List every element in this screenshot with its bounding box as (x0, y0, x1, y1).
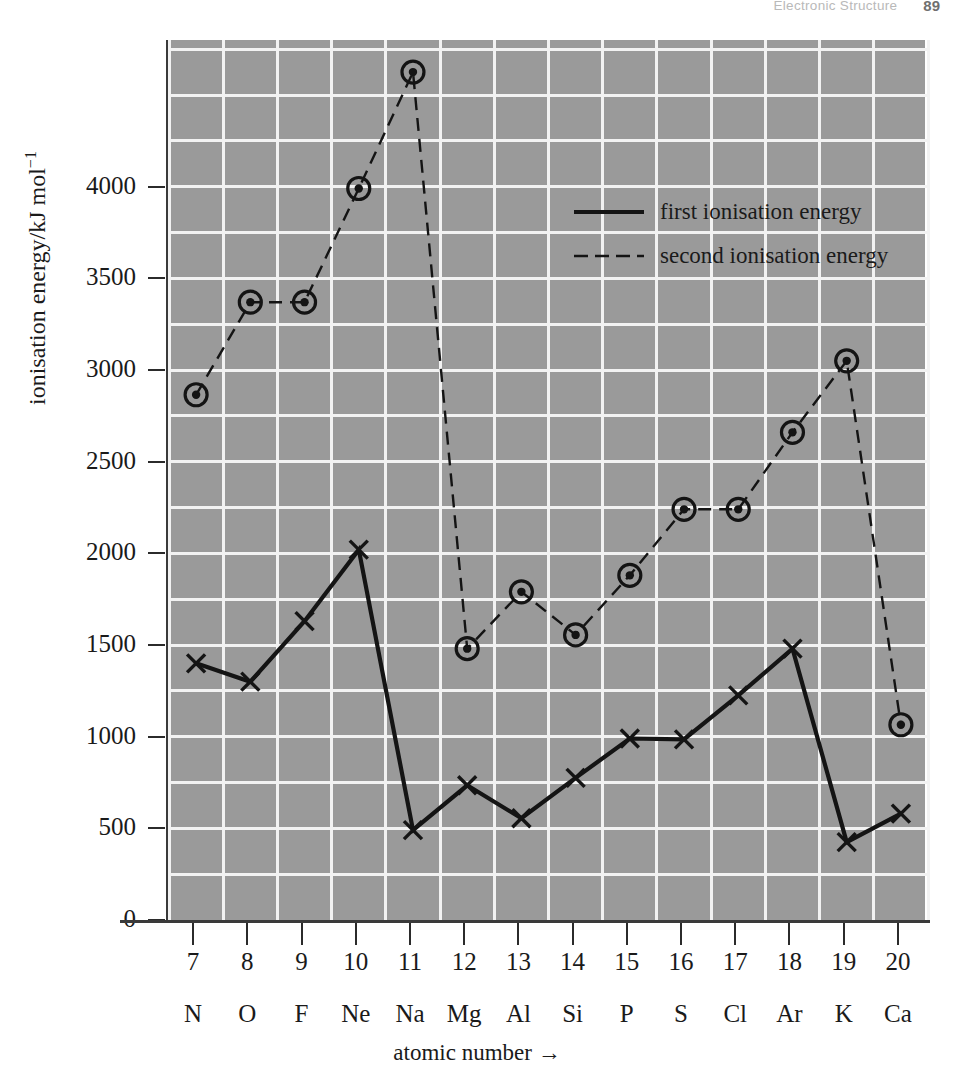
y-axis-tick (148, 644, 165, 646)
data-layer (169, 40, 928, 920)
element-symbol-label: N (163, 1000, 223, 1028)
element-symbol-label: O (217, 1000, 277, 1028)
element-symbol-label: Al (488, 1000, 548, 1028)
x-axis-tick (897, 923, 899, 945)
x-axis-tick-label: 20 (868, 948, 928, 976)
y-axis-tick-label: 3500 (16, 264, 136, 289)
y-axis-tick (148, 277, 165, 279)
legend-label-first: first ionisation energy (660, 199, 861, 225)
element-symbol-label: Ca (868, 1000, 928, 1028)
element-symbol-label: P (597, 1000, 657, 1028)
y-axis-tick (148, 186, 165, 188)
y-axis-tick (148, 552, 165, 554)
element-symbol-label: F (272, 1000, 332, 1028)
data-point-marker-dot (842, 357, 850, 365)
data-point-marker-dot (355, 184, 363, 192)
x-axis-tick (843, 923, 845, 945)
x-axis-tick (355, 923, 357, 945)
legend-solid-line-icon (572, 205, 646, 219)
element-symbol-label: Ar (759, 1000, 819, 1028)
element-symbol-label: Cl (705, 1000, 765, 1028)
data-point-marker-dot (626, 571, 634, 579)
x-axis-tick-label: 15 (597, 948, 657, 976)
element-symbol-label: Na (380, 1000, 440, 1028)
data-point-marker-dot (788, 428, 796, 436)
x-axis-tick (409, 923, 411, 945)
x-axis-tick (680, 923, 682, 945)
chart-legend: first ionisation energy second ionisatio… (572, 190, 888, 278)
data-point-marker-dot (246, 298, 254, 306)
y-axis-tick-label: 2500 (16, 448, 136, 473)
y-axis-tick-label: 0 (16, 906, 136, 931)
x-axis-tick (572, 923, 574, 945)
y-axis-tick (148, 827, 165, 829)
data-point-marker-dot (409, 68, 417, 76)
y-axis-title: ionisation energy/kJ mol−1 (22, 65, 51, 405)
series-first-ionisation-energy (187, 541, 910, 851)
element-symbol-label: Mg (434, 1000, 494, 1028)
data-point-marker-dot (571, 631, 579, 639)
element-symbol-label: Ne (326, 1000, 386, 1028)
x-axis-tick-label: 17 (705, 948, 765, 976)
x-axis-tick-label: 9 (272, 948, 332, 976)
element-symbol-label: S (651, 1000, 711, 1028)
y-axis-tick-label: 2000 (16, 539, 136, 564)
data-point-marker-dot (897, 721, 905, 729)
y-axis-tick (148, 736, 165, 738)
data-point-marker-dot (300, 298, 308, 306)
x-axis-tick-label: 18 (759, 948, 819, 976)
x-axis-tick (463, 923, 465, 945)
plot-area (166, 40, 925, 920)
x-axis-tick-label: 14 (543, 948, 603, 976)
data-point-marker-dot (680, 505, 688, 513)
x-axis-title: atomic number → (0, 1040, 954, 1066)
series-line-solid (196, 550, 901, 842)
element-symbol-label: K (814, 1000, 874, 1028)
y-axis-tick-label: 1500 (16, 631, 136, 656)
x-axis-tick (301, 923, 303, 945)
data-point-marker-dot (734, 505, 742, 513)
x-axis-tick (734, 923, 736, 945)
x-axis-tick-label: 10 (326, 948, 386, 976)
y-axis-tick-label: 500 (16, 814, 136, 839)
x-axis-tick (626, 923, 628, 945)
x-axis-tick (192, 923, 194, 945)
data-point-marker-dot (517, 588, 525, 596)
y-axis-tick-label: 4000 (16, 173, 136, 198)
ionisation-energy-chart: ionisation energy/kJ mol−1 0500100015002… (0, 0, 954, 1073)
legend-label-second: second ionisation energy (660, 243, 888, 269)
x-axis-tick-label: 12 (434, 948, 494, 976)
legend-dashed-line-icon (572, 249, 646, 263)
x-axis-tick-label: 19 (814, 948, 874, 976)
data-point-marker-dot (463, 644, 471, 652)
x-axis-tick (246, 923, 248, 945)
x-axis-line (120, 920, 930, 923)
x-axis-tick-label: 16 (651, 948, 711, 976)
x-axis-tick-label: 8 (217, 948, 277, 976)
x-axis-tick-label: 13 (488, 948, 548, 976)
legend-item-first: first ionisation energy (572, 190, 888, 234)
data-point-marker-dot (192, 391, 200, 399)
x-axis-tick-label: 7 (163, 948, 223, 976)
legend-item-second: second ionisation energy (572, 234, 888, 278)
y-axis-tick-label: 3000 (16, 356, 136, 381)
y-axis-tick (148, 369, 165, 371)
y-axis-tick (148, 461, 165, 463)
element-symbol-label: Si (543, 1000, 603, 1028)
y-axis-tick-label: 1000 (16, 723, 136, 748)
x-axis-tick (788, 923, 790, 945)
y-axis-title-exponent: −1 (22, 151, 39, 168)
x-axis-tick (517, 923, 519, 945)
x-axis-tick-label: 11 (380, 948, 440, 976)
